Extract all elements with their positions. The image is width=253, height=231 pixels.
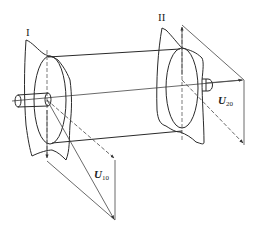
rotor-diagram: I II U10 U20 xyxy=(0,0,253,231)
plane-2 xyxy=(157,28,213,144)
plane-1-disk xyxy=(34,56,66,144)
vector-u10-resultant xyxy=(47,100,114,219)
vector-u10-construction xyxy=(47,100,115,220)
vector-u10-label: U10 xyxy=(94,168,109,182)
plane-2-label: II xyxy=(158,11,166,23)
vector-u20-label: U20 xyxy=(218,94,233,108)
plane-1-label: I xyxy=(26,26,30,38)
